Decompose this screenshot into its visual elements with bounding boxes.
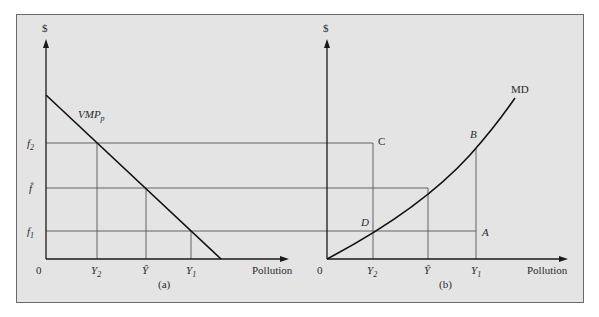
b-point-b: B xyxy=(470,128,477,140)
a-x-axis-label: Pollution xyxy=(252,264,293,276)
b-caption: (b) xyxy=(439,278,452,291)
pollution-tax-diagram: $ VMPp f2 f̂ f1 0 Y2 Ŷ Y1 Pollution (a) … xyxy=(0,0,599,317)
b-origin-label: 0 xyxy=(317,264,323,276)
a-caption: (a) xyxy=(158,278,171,291)
b-point-d: D xyxy=(360,216,369,228)
b-point-c: C xyxy=(378,135,385,147)
b-point-a: A xyxy=(481,226,489,238)
b-y-axis-label: $ xyxy=(323,22,329,34)
b-x-axis-label: Pollution xyxy=(527,264,568,276)
a-y-axis-label: $ xyxy=(42,22,48,34)
a-origin-label: 0 xyxy=(36,264,42,276)
b-curve-label: MD xyxy=(511,83,529,95)
